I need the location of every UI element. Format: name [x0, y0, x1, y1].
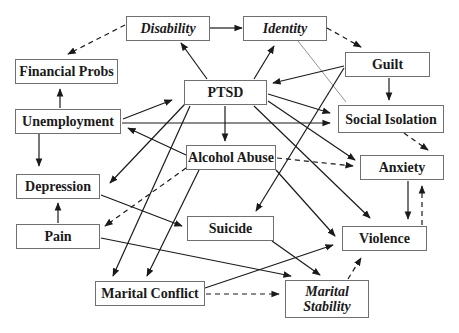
node-label: Unemployment [22, 114, 114, 129]
node-disability: Disability [126, 16, 210, 41]
edge-ptsd-to-marital-conflict [113, 106, 190, 276]
node-financial: Financial Probs [15, 59, 118, 84]
edge-unemployment-to-ptsd [123, 100, 172, 119]
node-label: Marital Stability [303, 284, 350, 314]
node-ptsd: PTSD [184, 80, 267, 105]
node-violence: Violence [342, 226, 427, 251]
node-label: Depression [25, 179, 91, 194]
node-label: Identity [263, 21, 307, 36]
node-label: Alcohol Abuse [188, 150, 274, 165]
edge-social-to-anxiety [404, 133, 428, 150]
node-alcohol: Alcohol Abuse [186, 145, 276, 170]
edge-ptsd-to-disability [181, 43, 207, 79]
edge-disability-to-financial [68, 25, 125, 54]
edge-alcohol-to-pain [105, 168, 186, 226]
node-pain: Pain [16, 224, 100, 249]
node-marital-conflict: Marital Conflict [95, 281, 205, 306]
node-label: PTSD [208, 85, 244, 100]
node-label: Violence [359, 231, 410, 246]
edge-pain-to-marital-stability [101, 238, 291, 276]
node-label: Marital Conflict [101, 286, 199, 301]
edge-ptsd-to-identity [254, 46, 274, 79]
node-depression: Depression [16, 174, 100, 199]
edge-guilt-to-suicide [256, 68, 344, 211]
edge-alcohol-to-unemployment [128, 128, 186, 155]
node-label: Guilt [372, 57, 403, 72]
node-social: Social Isolation [338, 105, 444, 133]
node-label: Disability [140, 21, 195, 36]
edge-ptsd-to-depression [110, 104, 185, 183]
node-identity: Identity [243, 16, 327, 41]
node-label: Anxiety [379, 160, 426, 175]
node-guilt: Guilt [345, 52, 430, 77]
node-label: Suicide [209, 221, 253, 236]
node-label: Financial Probs [19, 64, 113, 79]
edge-identity-to-guilt [327, 28, 361, 47]
edge-ptsd-to-social [268, 94, 330, 113]
edge-guilt-to-ptsd [273, 66, 344, 83]
node-label: Pain [44, 229, 71, 244]
node-marital-stability: Marital Stability [285, 280, 369, 318]
node-unemployment: Unemployment [15, 109, 121, 134]
edge-marital-stability-to-violence [348, 258, 361, 279]
node-anxiety: Anxiety [360, 155, 444, 180]
edge-alcohol-to-violence [276, 170, 335, 236]
node-suicide: Suicide [187, 216, 274, 241]
node-label: Social Isolation [345, 112, 436, 127]
